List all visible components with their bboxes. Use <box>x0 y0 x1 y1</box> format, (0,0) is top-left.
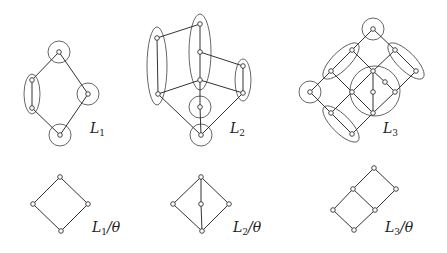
lattice-node <box>394 187 399 192</box>
lattice-node <box>329 69 334 74</box>
lattice-node <box>198 105 203 110</box>
lattice-node <box>198 78 203 83</box>
lattice-edge <box>173 204 202 231</box>
lattice-node <box>414 69 419 74</box>
lattice-node <box>371 90 376 95</box>
lattice-edge <box>59 52 88 94</box>
lattice-node <box>86 92 91 97</box>
lattice-edge <box>353 189 375 210</box>
lattice-node <box>227 202 232 207</box>
lattice-node <box>155 36 160 41</box>
lattice-node <box>57 50 62 55</box>
lattice-label: L3/θ <box>384 219 414 237</box>
lattice-edge <box>354 210 375 230</box>
lattice-diagram: L1L2L3 L1/θL2/θL3/θ <box>0 0 447 253</box>
lattice-node <box>331 208 336 213</box>
lattice-node <box>171 202 176 207</box>
lattice-label: L1/θ <box>91 219 121 237</box>
lattice-node <box>329 111 334 116</box>
lattice-node <box>199 175 204 180</box>
lattice-node <box>308 90 313 95</box>
lattice-edge <box>61 204 88 231</box>
lattice-node <box>199 133 204 138</box>
quotient-lattices: L1/θL2/θL3/θ <box>31 166 414 237</box>
lattice-label: L2/θ <box>232 219 262 237</box>
lattice-edge <box>331 92 352 113</box>
lattice-edge <box>352 92 373 113</box>
lattice-node <box>199 202 204 207</box>
lattice-label: L1 <box>89 120 105 138</box>
lattice-edge <box>33 204 61 231</box>
lattice-node <box>86 202 91 207</box>
lattice-node <box>241 64 246 69</box>
lattice-edge <box>352 71 373 92</box>
lattice-edge <box>331 71 352 92</box>
lattice-edge <box>158 94 201 135</box>
lattice-edge <box>157 24 200 38</box>
lattice-node <box>58 175 63 180</box>
lattice-node <box>31 202 36 207</box>
lattice-node <box>371 111 376 116</box>
lattice-node <box>198 50 203 55</box>
lattice-node <box>58 133 63 138</box>
lattice-edge <box>352 50 373 71</box>
lattice-node <box>198 22 203 27</box>
lattice-node <box>371 27 376 32</box>
lattice-edge <box>60 177 88 204</box>
lattice-edge <box>32 52 59 80</box>
quotient-l1-theta: L1/θ <box>31 175 121 237</box>
lattice-edge <box>331 113 352 134</box>
lattice-node <box>352 228 357 233</box>
lattice-edge <box>201 204 202 231</box>
lattice-node <box>351 187 356 192</box>
lattice-l3: L3 <box>299 18 429 147</box>
lattice-node <box>241 91 246 96</box>
lattice-edge <box>200 80 243 93</box>
lattice-node <box>393 48 398 53</box>
lattice-edge <box>353 168 374 189</box>
lattice-node <box>350 48 355 53</box>
lattice-edge <box>173 177 201 204</box>
lattice-edge <box>157 38 158 94</box>
lattice-node <box>393 90 398 95</box>
congruence-class-ellipse <box>318 101 365 148</box>
lattice-edge <box>200 107 201 135</box>
quotient-l3-theta: L3/θ <box>331 166 414 237</box>
lattice-l1: L1 <box>24 41 105 146</box>
lattice-edge <box>333 210 354 230</box>
lattice-node <box>30 106 35 111</box>
lattice-edge <box>331 50 352 71</box>
lattice-node <box>59 229 64 234</box>
lattice-l2: L2 <box>147 14 251 146</box>
lattice-node <box>373 208 378 213</box>
lattice-node <box>383 80 388 85</box>
lattice-edge <box>60 94 88 135</box>
lattice-node <box>372 166 377 171</box>
lattice-node <box>371 69 376 74</box>
lattice-edge <box>158 80 200 94</box>
lattice-edge <box>352 113 373 134</box>
lattice-label: L3 <box>382 120 398 138</box>
quotient-l2-theta: L2/θ <box>171 175 262 237</box>
lattice-node <box>350 90 355 95</box>
lattice-label: L2 <box>229 120 245 138</box>
lattice-node <box>350 132 355 137</box>
lattices-with-congruence-classes: L1L2L3 <box>24 14 429 147</box>
lattice-edge <box>201 177 229 204</box>
lattice-edge <box>200 52 243 66</box>
lattice-node <box>200 229 205 234</box>
lattice-edge <box>32 108 60 135</box>
lattice-node <box>156 92 161 97</box>
lattice-edge <box>33 177 60 204</box>
lattice-edge <box>375 189 396 210</box>
lattice-edge <box>333 189 353 210</box>
lattice-edge <box>374 168 396 189</box>
lattice-edge <box>202 204 229 231</box>
lattice-edge <box>395 50 416 71</box>
lattice-node <box>30 78 35 83</box>
